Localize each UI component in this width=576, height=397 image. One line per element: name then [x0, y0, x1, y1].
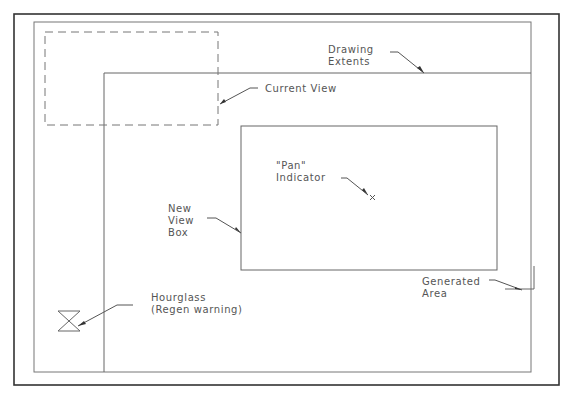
label-current-view: Current View: [265, 83, 337, 95]
label-hourglass: Hourglass(Regen warning): [151, 292, 243, 316]
hourglass-icon: [58, 311, 80, 331]
pan-indicator-icon: [370, 195, 375, 200]
arrowhead-icon: [417, 66, 424, 73]
label-new-view-box: NewViewBox: [168, 203, 194, 239]
new-view-box: [241, 126, 497, 270]
current-view-box: [45, 32, 218, 125]
arrowhead-icon: [78, 321, 86, 326]
label-pan-indicator: "Pan"Indicator: [276, 160, 326, 184]
outer-frame: [14, 14, 559, 385]
label-drawing-extents: DrawingExtents: [328, 44, 374, 68]
leader-hourglass: [78, 305, 133, 326]
arrowhead-icon: [220, 99, 226, 104]
leader-pan: [341, 178, 368, 195]
leader-new-view: [207, 218, 241, 233]
label-generated-area: GeneratedArea: [422, 276, 480, 300]
diagram-canvas: [0, 0, 576, 397]
leader-drawing-extents: [390, 52, 424, 73]
screen-border: [34, 22, 531, 372]
